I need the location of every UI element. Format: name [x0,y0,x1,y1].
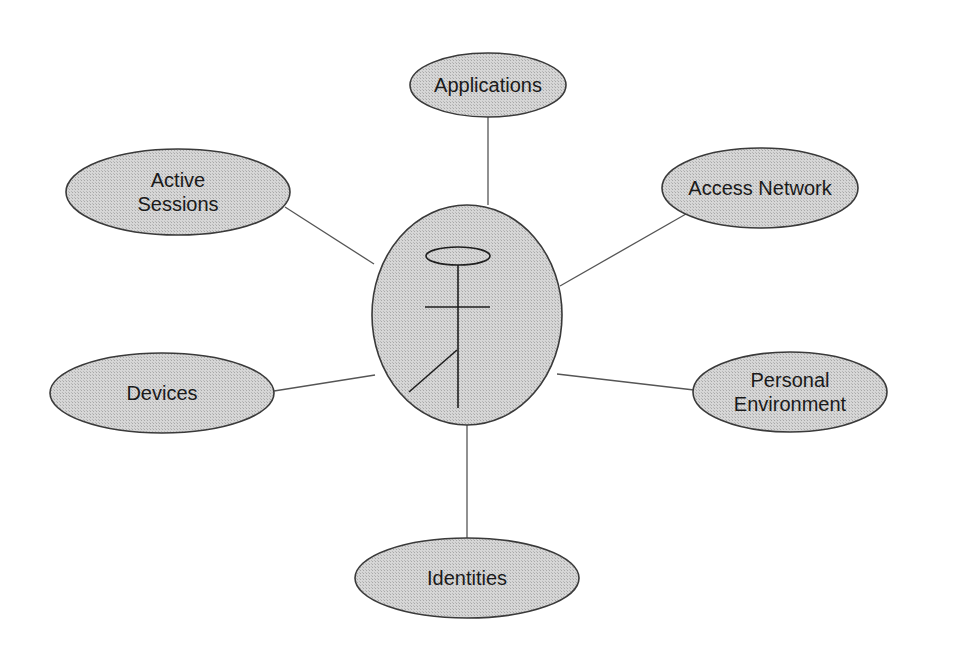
node-applications[interactable]: Applications [410,53,566,117]
identities-label: Identities [427,567,507,589]
connector-devices [274,375,375,391]
node-identities[interactable]: Identities [355,538,579,618]
active-sessions-label: Sessions [137,193,218,215]
connector-active-sessions [285,207,374,264]
node-access-network[interactable]: Access Network [662,148,858,228]
devices-label: Devices [126,382,197,404]
node-personal-environment[interactable]: PersonalEnvironment [693,352,887,432]
connector-personal-environment [557,374,694,390]
personal-environment-label: Personal [751,369,830,391]
center-user-node[interactable] [372,205,562,425]
personal-environment-label: Environment [734,393,847,415]
connector-access-network [560,214,686,286]
active-sessions-label: Active [151,169,205,191]
applications-label: Applications [434,74,542,96]
active-sessions-ellipse[interactable] [66,149,290,235]
access-network-label: Access Network [688,177,832,199]
personal-environment-ellipse[interactable] [693,352,887,432]
identity-context-diagram: ApplicationsActiveSessionsAccess Network… [0,0,972,649]
center-ellipse[interactable] [372,205,562,425]
node-active-sessions[interactable]: ActiveSessions [66,149,290,235]
node-devices[interactable]: Devices [50,353,274,433]
